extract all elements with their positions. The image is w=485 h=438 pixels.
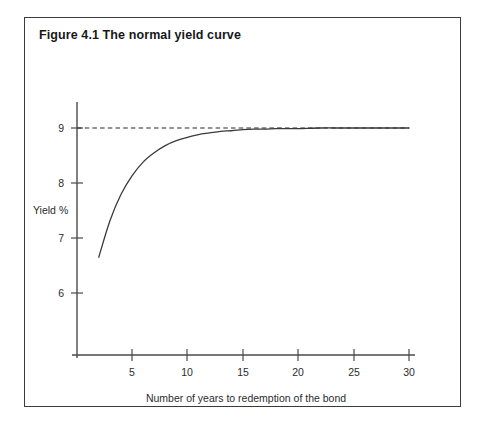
x-axis-title: Number of years to redemption of the bon…	[146, 392, 346, 404]
figure-container: Figure 4.1 The normal yield curve 9 8 7 …	[0, 0, 485, 438]
y-tick-label-6: 6	[58, 287, 64, 299]
y-tick-label-9: 9	[58, 122, 64, 134]
x-tick-label-5: 5	[129, 366, 135, 378]
x-tick-label-25: 25	[348, 366, 360, 378]
yield-curve-chart: 9 8 7 6 Yield % 5 10 15 20 25 30 Number …	[24, 17, 461, 407]
y-tick-label-8: 8	[58, 177, 64, 189]
y-tick-label-7: 7	[58, 232, 64, 244]
x-tick-label-30: 30	[403, 366, 415, 378]
y-axis-title: Yield %	[33, 204, 68, 216]
x-tick-label-10: 10	[181, 366, 193, 378]
x-tick-label-15: 15	[237, 366, 249, 378]
x-tick-label-20: 20	[292, 366, 304, 378]
yield-curve-line	[99, 128, 409, 257]
